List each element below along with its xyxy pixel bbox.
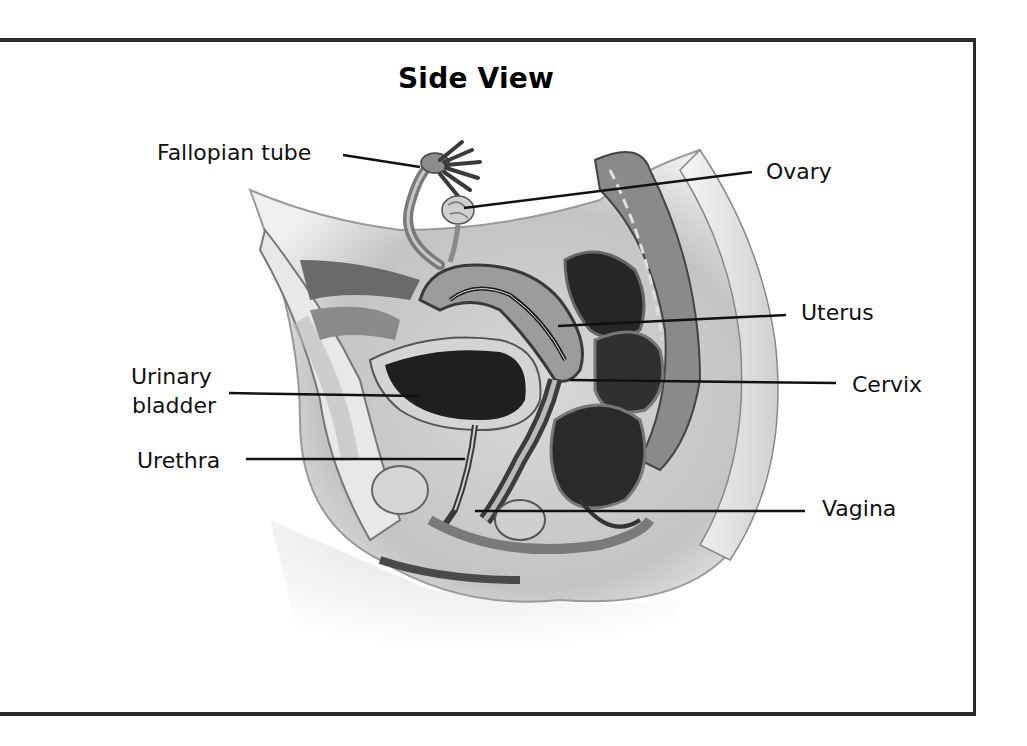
label-urethra: Urethra <box>137 448 220 474</box>
label-vagina: Vagina <box>822 496 896 522</box>
diagram-title: Side View <box>0 62 952 95</box>
label-uterus: Uterus <box>801 300 874 326</box>
label-urinary-bladder-line1: Urinary <box>131 364 212 390</box>
label-fallopian-tube: Fallopian tube <box>157 140 311 166</box>
label-cervix: Cervix <box>852 372 922 398</box>
label-urinary-bladder-line2: bladder <box>132 393 216 419</box>
label-ovary: Ovary <box>766 159 832 185</box>
